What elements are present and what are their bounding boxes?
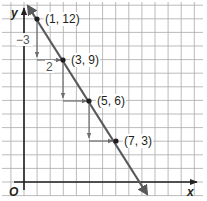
point-1-12 <box>34 16 39 21</box>
x-axis-label: x <box>186 185 195 199</box>
run-label: 2 <box>46 60 53 74</box>
point-label-5-6: (5, 6) <box>97 94 125 108</box>
point-label-1-12: (1, 12) <box>45 12 80 26</box>
point-3-9 <box>60 57 65 62</box>
coordinate-graph: x y O −3 2 (1, 12) (3, 9) (5, 6) (7, 3) <box>0 0 207 201</box>
rise-label: −3 <box>16 33 30 47</box>
y-axis-label: y <box>10 6 19 20</box>
origin-label: O <box>9 185 19 199</box>
point-5-6 <box>86 98 91 103</box>
point-7-3 <box>113 138 118 143</box>
point-label-3-9: (3, 9) <box>71 53 99 67</box>
point-label-7-3: (7, 3) <box>124 134 152 148</box>
